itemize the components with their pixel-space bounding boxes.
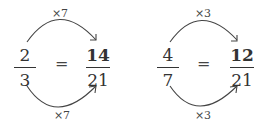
numerator: 12 (230, 46, 254, 64)
denominator: 3 (14, 71, 36, 89)
bottom-multiplier-label: ×3 (188, 109, 218, 122)
top-multiplier-label: ×7 (45, 7, 75, 20)
right-fraction: 14 21 (86, 46, 110, 89)
equals-sign: = (197, 54, 210, 73)
numerator: 2 (14, 46, 36, 64)
numerator: 14 (86, 46, 110, 64)
denominator: 21 (86, 71, 110, 89)
denominator: 7 (157, 71, 179, 89)
numerator: 4 (157, 46, 179, 64)
equation-2: ×3 4 7 = 12 21 ×3 (130, 0, 260, 128)
left-fraction: 2 3 (14, 46, 36, 89)
fraction-bar (14, 67, 36, 68)
equation-1: ×7 2 3 = 14 21 ×7 (0, 0, 130, 128)
fraction-bar (230, 67, 254, 68)
left-fraction: 4 7 (157, 46, 179, 89)
fraction-bar (86, 67, 110, 68)
top-multiplier-label: ×3 (188, 7, 218, 20)
denominator: 21 (230, 71, 254, 89)
equals-sign: = (55, 54, 68, 73)
bottom-multiplier-label: ×7 (47, 109, 77, 122)
right-fraction: 12 21 (230, 46, 254, 89)
fraction-bar (157, 67, 179, 68)
